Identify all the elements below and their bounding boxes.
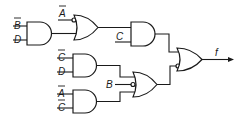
arrow-right-icon: [228, 57, 234, 62]
and1-inputs: B D: [13, 18, 27, 45]
wire-or2-or3: [157, 66, 176, 85]
label-c: C: [116, 31, 124, 42]
wire-and4-or2: [97, 92, 136, 102]
and4-inputs: A C: [57, 86, 73, 113]
and-gate-1: [27, 22, 52, 45]
output-label-f: f: [215, 47, 219, 58]
or-gate-1: [74, 15, 98, 40]
or-gate-2: [133, 72, 157, 97]
and-gate-2: [73, 54, 97, 77]
and-gate-3: [131, 22, 155, 46]
logic-circuit-diagram: B D A C C D A C B: [0, 0, 236, 121]
label-b: B: [106, 79, 113, 90]
and2-inputs: C D: [57, 50, 73, 77]
wire-and2-or2: [97, 66, 136, 78]
or-gate-3: [177, 48, 202, 71]
or1-inputs: A: [58, 6, 76, 22]
and-gate-4: [73, 90, 97, 113]
wire-and3-or3: [155, 34, 178, 52]
inverter-bubble-icon: [131, 83, 135, 87]
label-a-bar: A: [58, 8, 66, 19]
